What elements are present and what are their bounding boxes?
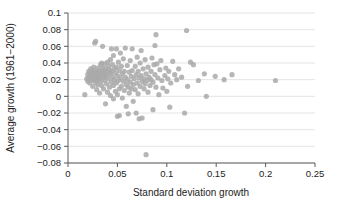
data-point [121,56,126,61]
x-tick-labels: 00.050.10.150.20.25 [65,168,324,179]
data-point [164,89,169,94]
data-point [153,85,158,90]
data-point [117,113,122,118]
data-point [191,62,196,67]
data-point [136,91,141,96]
data-point [130,68,135,73]
y-tick-label: 0.02 [43,74,62,85]
data-point [115,92,120,97]
data-point [116,60,121,65]
scatter-plot-figure: 00.050.10.150.20.25 −0.08−0.06−0.04−0.02… [0,0,343,201]
data-point [140,115,145,120]
data-point [168,80,173,85]
data-point [172,72,177,77]
data-point [150,80,155,85]
data-point [128,58,133,63]
data-point [179,75,184,80]
data-point [125,63,130,68]
y-tick-label: 0.08 [43,24,62,35]
data-point [126,111,131,116]
data-point [108,57,113,62]
data-point [140,66,145,71]
data-point [142,57,147,62]
data-point [93,39,98,44]
data-point [131,99,136,104]
data-point [154,61,159,66]
data-point [100,44,105,49]
data-point [167,105,172,110]
data-point [97,90,102,95]
x-tick-label: 0.1 [160,168,173,179]
x-tick-label: 0.15 [207,168,226,179]
data-point [166,69,171,74]
data-point [148,69,153,74]
data-point [213,74,218,79]
x-tick-label: 0.2 [259,168,272,179]
x-tick-label: 0 [65,168,70,179]
y-axis-ticks [64,13,68,163]
y-tick-label: 0 [56,91,61,102]
data-point [114,46,119,51]
data-point [134,110,139,115]
x-axis-title: Standard deviation growth [133,187,249,198]
data-point [120,95,125,100]
data-point [135,55,140,60]
data-point [136,69,141,74]
data-point [176,66,181,71]
y-tick-label: −0.06 [37,141,61,152]
data-point [138,60,143,65]
data-point [118,50,123,55]
data-point [160,85,165,90]
data-point [158,58,163,63]
data-point [143,152,148,157]
data-point [111,53,116,58]
y-axis-title: Average growth (1961−2000) [5,23,16,153]
data-point [196,78,201,83]
data-point [109,46,114,51]
data-point [150,107,155,112]
data-point [273,78,278,83]
x-tick-label: 0.25 [306,168,325,179]
data-point [119,84,124,89]
data-point [149,55,154,60]
data-point [133,64,138,69]
data-point [145,65,150,70]
y-tick-label: 0.04 [43,57,62,68]
data-point [133,87,138,92]
data-point [103,101,108,106]
data-point [124,104,129,109]
data-point [229,72,234,77]
data-points [82,28,278,157]
data-point [141,86,146,91]
data-point [122,69,127,74]
y-tick-label: −0.04 [37,124,61,135]
data-point [82,92,87,97]
data-point [152,43,157,48]
y-tick-label: −0.02 [37,107,61,118]
data-point [119,64,124,69]
data-point [101,86,106,91]
x-axis-ticks [68,163,315,167]
data-point [204,94,209,99]
data-point [184,28,189,33]
data-point [156,92,161,97]
data-point [157,67,162,72]
data-point [130,46,135,51]
y-tick-label: 0.06 [43,41,62,52]
data-point [222,77,227,82]
data-point [182,110,187,115]
data-point [165,76,170,81]
data-point [111,96,116,101]
data-point [145,90,150,95]
data-point [139,48,144,53]
y-tick-label: 0.1 [48,7,61,18]
data-point [159,78,164,83]
data-point [174,77,179,82]
data-point [153,32,158,37]
y-tick-labels: −0.08−0.06−0.04−0.0200.020.040.060.080.1 [37,7,61,168]
data-point [122,88,127,93]
data-point [123,45,128,50]
y-tick-label: −0.08 [37,157,61,168]
x-tick-label: 0.05 [108,168,127,179]
data-point [90,84,95,89]
